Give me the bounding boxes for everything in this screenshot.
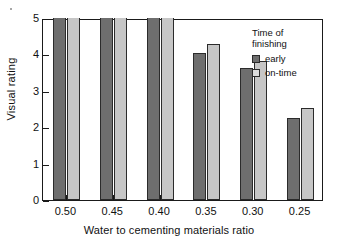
y-axis-tick: 0 [43, 201, 49, 202]
y-axis-tick: 4 [43, 55, 49, 56]
y-axis-tick-label: 0 [17, 194, 39, 206]
legend-swatch-early-icon [252, 55, 260, 63]
bar-early [287, 118, 300, 200]
bar-on-time [114, 18, 127, 200]
bar-early [100, 18, 113, 200]
y-axis-tick-label: 5 [17, 12, 39, 24]
y-axis-tick: 3 [43, 92, 49, 93]
bar-on-time [254, 61, 267, 200]
y-axis-tick-label: 1 [17, 158, 39, 170]
bar-on-time [207, 44, 220, 200]
y-axis-title: Visual rating [5, 29, 17, 149]
bar-chart-figure: Visual rating 012345 0.500.450.400.350.3… [0, 0, 338, 245]
legend: Time of finishing early on-time [252, 27, 330, 81]
x-axis-tick-label: 0.30 [230, 205, 276, 217]
bar-on-time [161, 18, 174, 200]
legend-title: Time of finishing [252, 27, 330, 49]
y-axis-tick: 2 [43, 128, 49, 129]
bar-early [193, 53, 206, 200]
legend-item-early: early [252, 53, 330, 64]
bar-early [53, 18, 66, 200]
y-axis-tick-label: 2 [17, 121, 39, 133]
bar-on-time [67, 18, 80, 200]
legend-item-ontime: on-time [252, 67, 330, 78]
x-axis-tick-label: 0.25 [277, 205, 323, 217]
legend-swatch-ontime-icon [252, 69, 260, 77]
x-axis-tick-label: 0.40 [136, 205, 182, 217]
x-axis-tick-label: 0.45 [89, 205, 135, 217]
y-axis-tick: 5 [43, 19, 49, 20]
scan-artifact-dot [10, 8, 12, 10]
legend-label-early: early [265, 53, 286, 64]
x-axis-tick-label: 0.35 [183, 205, 229, 217]
bar-early [147, 18, 160, 200]
bar-on-time [301, 108, 314, 200]
y-axis-tick: 1 [43, 165, 49, 166]
bar-early [240, 68, 253, 200]
y-axis-tick-label: 3 [17, 85, 39, 97]
x-axis-tick-label: 0.50 [42, 205, 88, 217]
legend-label-ontime: on-time [265, 67, 297, 78]
x-axis-title: Water to cementing materials ratio [0, 224, 338, 236]
y-axis-tick-label: 4 [17, 48, 39, 60]
